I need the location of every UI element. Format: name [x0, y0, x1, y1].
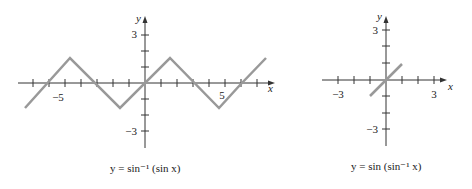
right-y-axis-label: y: [376, 10, 382, 22]
left-chart: −5 5 3 −3 y: [18, 12, 275, 148]
left-x-tick-label-5: 5: [219, 89, 225, 101]
right-y-tick-label-neg3: −3: [366, 123, 378, 135]
right-chart: −3 3 x 3 −3 y: [322, 10, 453, 146]
left-chart-caption: y = sin⁻¹ (sin x): [110, 162, 181, 175]
left-x-axis-label: x: [267, 82, 273, 94]
right-chart-caption: y = sin (sin⁻¹ x): [351, 160, 422, 173]
left-y-tick-label-neg3: −3: [125, 125, 137, 137]
left-y-tick-label-3: 3: [132, 28, 138, 40]
left-y-arrow-icon: [143, 16, 148, 23]
right-y-tick-label-3: 3: [373, 24, 379, 36]
left-y-axis-label: y: [135, 12, 141, 24]
right-x-tick-label-neg3: −3: [332, 88, 344, 100]
right-x-axis-label: x: [447, 80, 453, 92]
right-x-arrow-icon: [440, 78, 447, 83]
left-x-tick-label-neg5: −5: [52, 91, 64, 103]
right-x-tick-label-3: 3: [431, 88, 437, 100]
right-y-arrow-icon: [384, 16, 389, 23]
